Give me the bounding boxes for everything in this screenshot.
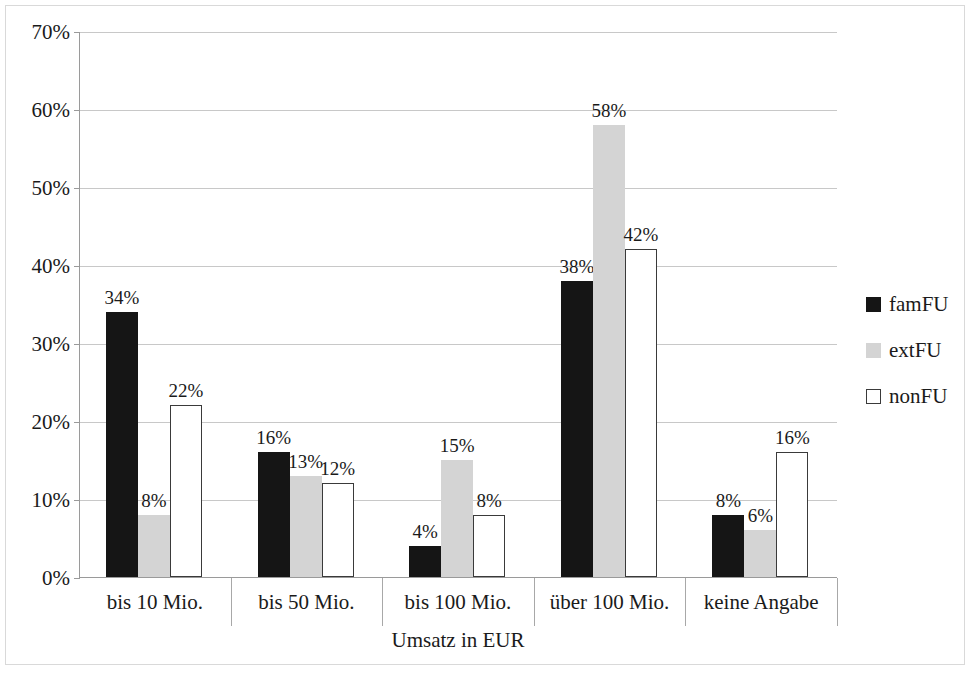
legend-label-nonFU: nonFU [889,384,947,409]
y-axis-tick-50 [74,188,80,189]
x-axis-separator-4 [685,578,686,626]
bar-extFU-5[interactable] [744,530,776,577]
bar-value-label-nonFU-2: 12% [309,459,367,478]
bar-nonFU-3[interactable] [473,515,505,577]
bar-value-label-famFU-1: 34% [93,288,151,307]
gridline-50 [80,188,837,189]
bar-famFU-2[interactable] [258,452,290,577]
bar-extFU-1[interactable] [138,515,170,577]
legend-label-famFU: famFU [889,292,949,317]
x-axis-separator-end [837,578,838,626]
y-axis-tick-20 [74,422,80,423]
bar-value-label-extFU-3: 15% [428,436,486,455]
x-axis-separator-2 [382,578,383,626]
legend-item-extFU[interactable]: extFU [866,327,966,373]
category-axis: bis 10 Mio.bis 50 Mio.bis 100 Mio.über 1… [79,578,837,626]
bar-extFU-2[interactable] [290,476,322,577]
y-axis-tick-70 [74,32,80,33]
bar-value-label-nonFU-4: 42% [612,225,670,244]
x-axis-separator-1 [231,578,232,626]
bar-value-label-famFU-2: 16% [245,428,303,447]
bar-value-label-extFU-4: 58% [580,101,638,120]
y-axis-label-10: 10% [32,490,71,511]
x-axis-category-label-3: bis 100 Mio. [382,578,534,626]
y-axis-label-70: 70% [32,22,71,43]
y-axis-label-60: 60% [32,100,71,121]
legend-swatch-nonFU [866,389,881,404]
x-axis-category-label-2: bis 50 Mio. [231,578,383,626]
bar-value-label-nonFU-5: 16% [763,428,821,447]
x-axis-title: Umsatz in EUR [79,628,837,653]
x-axis-separator-3 [534,578,535,626]
bar-nonFU-2[interactable] [322,483,354,577]
bar-famFU-3[interactable] [409,546,441,577]
chart-frame: 0%10%20%30%40%50%60%70% 34%8%22%16%13%12… [5,5,965,665]
bar-nonFU-4[interactable] [625,249,657,577]
gridline-70 [80,32,837,33]
bar-extFU-4[interactable] [593,125,625,577]
legend-swatch-famFU [866,297,881,312]
y-axis-tick-60 [74,110,80,111]
bar-nonFU-1[interactable] [170,405,202,577]
legend-label-extFU: extFU [889,338,942,363]
bar-value-label-nonFU-3: 8% [460,491,518,510]
y-axis-tick-40 [74,266,80,267]
y-axis-label-50: 50% [32,178,71,199]
y-axis-label-30: 30% [32,334,71,355]
y-axis-tick-10 [74,500,80,501]
gridline-30 [80,344,837,345]
y-axis-label-0: 0% [42,568,70,589]
legend-swatch-extFU [866,343,881,358]
legend-item-nonFU[interactable]: nonFU [866,373,966,419]
gridline-40 [80,266,837,267]
y-axis-label-40: 40% [32,256,71,277]
y-axis-tick-30 [74,344,80,345]
x-axis-category-label-5: keine Angabe [685,578,837,626]
gridline-60 [80,110,837,111]
chart-legend: famFUextFUnonFU [866,281,966,419]
y-axis-label-20: 20% [32,412,71,433]
x-axis-category-label-4: über 100 Mio. [534,578,686,626]
bar-famFU-4[interactable] [561,281,593,577]
bar-nonFU-5[interactable] [776,452,808,577]
legend-item-famFU[interactable]: famFU [866,281,966,327]
plot-area: 0%10%20%30%40%50%60%70% 34%8%22%16%13%12… [79,32,837,578]
bar-value-label-nonFU-1: 22% [157,381,215,400]
bar-famFU-1[interactable] [106,312,138,577]
bar-extFU-3[interactable] [441,460,473,577]
x-axis-category-label-1: bis 10 Mio. [79,578,231,626]
